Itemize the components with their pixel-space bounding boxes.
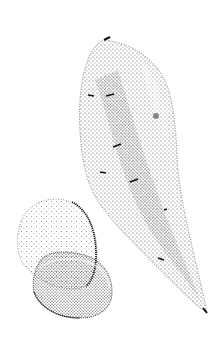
sweet-potato-illustration xyxy=(0,0,224,343)
front-potato-slice xyxy=(33,252,112,318)
